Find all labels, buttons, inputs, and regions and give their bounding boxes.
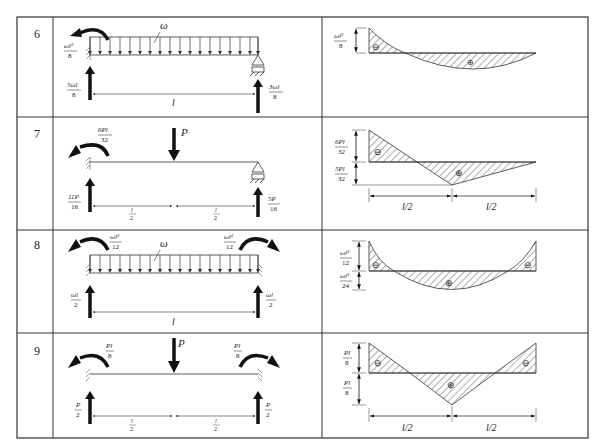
- svg-text:2: 2: [266, 411, 270, 419]
- svg-text:2: 2: [214, 215, 217, 221]
- svg-text:Pl: Pl: [105, 342, 112, 350]
- row-number: 8: [34, 238, 40, 252]
- svg-text:ωl²: ωl²: [64, 42, 74, 50]
- svg-text:8: 8: [345, 389, 349, 397]
- moment-diagram-8: ⊖ ⊕ ⊖ ωl² 12 ωl² 24: [340, 241, 536, 290]
- moment-diagram-6: ⊖ ⊕ ωl² 8: [334, 28, 536, 69]
- svg-text:6Pl: 6Pl: [335, 138, 345, 146]
- svg-text:ω: ω: [160, 237, 168, 249]
- svg-text:2: 2: [130, 215, 133, 221]
- svg-text:l/2: l/2: [486, 422, 497, 433]
- svg-text:⊖: ⊖: [374, 358, 382, 368]
- fixed-support-icon: [86, 157, 90, 170]
- svg-text:2: 2: [269, 301, 273, 309]
- svg-text:8: 8: [236, 352, 240, 360]
- row-number: 6: [34, 27, 40, 41]
- svg-text:l: l: [172, 316, 175, 327]
- svg-text:l: l: [215, 207, 217, 213]
- svg-text:24: 24: [342, 282, 350, 290]
- svg-text:16: 16: [270, 205, 278, 213]
- svg-text:2: 2: [74, 301, 78, 309]
- svg-text:l: l: [131, 207, 133, 213]
- svg-text:2: 2: [214, 426, 217, 432]
- svg-text:l: l: [131, 418, 133, 424]
- svg-text:⊖: ⊖: [522, 358, 530, 368]
- svg-text:2: 2: [76, 411, 80, 419]
- roller-support-icon: [250, 55, 264, 76]
- svg-text:Pl: Pl: [233, 342, 240, 350]
- svg-text:2: 2: [130, 426, 133, 432]
- svg-text:8: 8: [345, 359, 349, 367]
- svg-text:P: P: [265, 401, 271, 409]
- beam-diagram-8: ω ωl² 12 ωl² 12 ωl 2 ωl 2 l: [68, 233, 280, 327]
- svg-text:8: 8: [68, 52, 72, 60]
- svg-text:12: 12: [342, 259, 350, 267]
- svg-text:8: 8: [108, 352, 112, 360]
- svg-text:Pl: Pl: [343, 349, 350, 357]
- moment-diagram-9: ⊖ ⊕ ⊖ Pl 8 Pl 8 l/2 l/2: [343, 343, 536, 433]
- svg-text:ωl: ωl: [266, 291, 273, 299]
- svg-text:3ωl: 3ωl: [268, 83, 279, 91]
- svg-text:l: l: [215, 418, 217, 424]
- point-load-label: P: [180, 126, 188, 138]
- svg-text:12: 12: [226, 243, 234, 251]
- svg-text:l: l: [172, 97, 175, 108]
- svg-text:ωl²: ωl²: [110, 233, 120, 241]
- fixed-support-icon: [86, 264, 262, 276]
- svg-text:32: 32: [338, 175, 346, 183]
- svg-text:ωl²: ωl²: [340, 249, 350, 257]
- svg-text:P: P: [177, 337, 185, 349]
- svg-text:⊕: ⊕: [445, 278, 453, 288]
- svg-text:11P: 11P: [68, 193, 79, 201]
- svg-text:ωl: ωl: [71, 291, 78, 299]
- svg-text:Pl: Pl: [343, 379, 350, 387]
- svg-text:⊕: ⊕: [447, 380, 455, 390]
- svg-text:5P: 5P: [268, 195, 277, 203]
- beam-diagram-6: ω ωl² 8 5ωl 8 3ωl 8 l: [64, 19, 283, 113]
- svg-text:32: 32: [338, 148, 346, 156]
- svg-text:⊖: ⊖: [524, 260, 532, 270]
- roller-support-icon: [250, 162, 264, 183]
- beam-table: 6 7 8 9 ω ωl² 8 5ωl: [0, 0, 606, 448]
- svg-text:⊕: ⊕: [455, 168, 463, 178]
- svg-text:ωl²: ωl²: [334, 32, 344, 40]
- svg-text:⊕: ⊕: [467, 58, 474, 67]
- row-number: 9: [34, 344, 40, 358]
- svg-text:16: 16: [71, 203, 79, 211]
- svg-text:5ωl: 5ωl: [67, 81, 77, 89]
- row-number: 7: [34, 127, 40, 141]
- svg-text:8: 8: [72, 91, 76, 99]
- svg-text:5Pl: 5Pl: [335, 165, 345, 173]
- svg-text:32: 32: [101, 136, 109, 144]
- svg-text:⊖: ⊖: [374, 147, 382, 157]
- svg-text:P: P: [75, 401, 81, 409]
- distributed-load-arrows: [90, 37, 258, 52]
- svg-text:8: 8: [339, 42, 343, 50]
- moment-diagram-7: ⊖ ⊕ 6Pl 32 5Pl 32 l/2 l/2: [335, 130, 536, 212]
- svg-text:ωl²: ωl²: [224, 233, 234, 241]
- svg-text:l/2: l/2: [486, 201, 497, 212]
- svg-text:ωl²: ωl²: [340, 272, 350, 280]
- svg-text:12: 12: [112, 243, 120, 251]
- load-label: ω: [160, 19, 168, 31]
- svg-text:l/2: l/2: [402, 422, 413, 433]
- svg-text:l/2: l/2: [402, 201, 413, 212]
- svg-text:⊖: ⊖: [372, 260, 380, 270]
- table-grid: [17, 17, 588, 438]
- beam-diagram-9: P Pl 8 Pl 8 P 2 P 2 l 2 l 2: [68, 337, 280, 432]
- beam-diagram-7: P 6Pl 32 11P 16 5P 16 l 2 l 2: [68, 126, 280, 221]
- svg-text:8: 8: [273, 93, 277, 101]
- svg-text:⊖: ⊖: [372, 42, 380, 52]
- svg-text:6Pl: 6Pl: [98, 126, 108, 134]
